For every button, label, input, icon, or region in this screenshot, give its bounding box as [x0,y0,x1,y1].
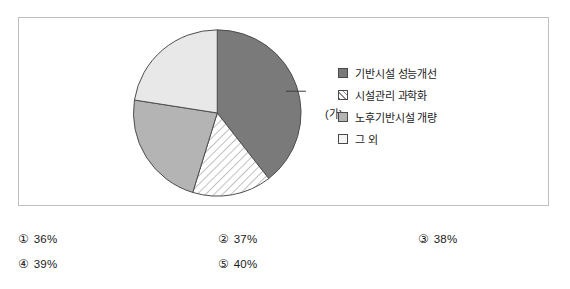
medium-gray-swatch-icon [338,112,348,122]
choice-label: 37% [234,233,258,245]
answer-choice-row: ④ 39% ⑤ 40% [18,251,552,276]
choice-number: ③ [418,233,429,245]
legend-item: 그 외 [338,128,488,150]
legend-item: 시설관리 과학화 [338,84,488,106]
answer-choice-5[interactable]: ⑤ 40% [218,258,418,270]
legend-item: 기반시설 성능개선 [338,62,488,84]
chart-legend: 기반시설 성능개선 시설관리 과학화 노후기반시설 개량 그 외 [338,62,488,150]
answer-choice-1[interactable]: ① 36% [18,233,218,245]
legend-item-label: 시설관리 과학화 [355,87,427,103]
choice-label: 38% [434,233,458,245]
legend-item-label: 그 외 [355,131,378,147]
choice-label: 40% [234,258,258,270]
choice-label: 36% [34,233,58,245]
answer-choice-3[interactable]: ③ 38% [418,233,548,245]
pie-slice-others [134,30,217,113]
choice-number: ④ [18,258,29,270]
legend-item-label: 노후기반시설 개량 [355,109,437,125]
light-gray-swatch-icon [338,134,348,144]
answer-choice-4[interactable]: ④ 39% [18,258,218,270]
legend-item-label: 기반시설 성능개선 [355,65,437,81]
legend-item: 노후기반시설 개량 [338,106,488,128]
choice-number: ① [18,233,29,245]
answer-choices: ① 36% ② 37% ③ 38% ④ 39% ⑤ 40% [18,226,552,276]
choice-label: 39% [34,258,58,270]
hatched-swatch-icon [338,90,348,100]
answer-choice-row: ① 36% ② 37% ③ 38% [18,226,552,251]
choice-number: ② [218,233,229,245]
chart-frame: (가) 기반시설 성능개선 시설관리 과학화 노후기반시설 개량 그 외 [18,17,549,206]
choice-number: ⑤ [218,258,229,270]
dark-gray-solid-swatch-icon [338,68,348,78]
answer-choice-2[interactable]: ② 37% [218,233,418,245]
